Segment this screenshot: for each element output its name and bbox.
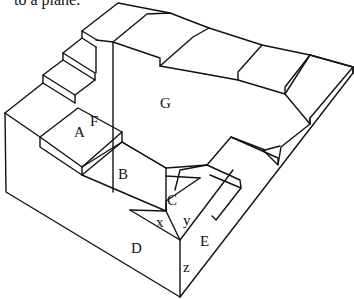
outer-block-edges [5, 67, 353, 297]
middle-steps [40, 108, 233, 240]
right-stairs [175, 67, 353, 220]
label-G: G [160, 95, 171, 111]
label-A: A [74, 124, 85, 140]
staircase-diagram: F G A B C x y E D z [0, 0, 354, 299]
label-D: D [131, 240, 142, 256]
label-E: E [200, 233, 209, 249]
label-C: C [167, 192, 177, 208]
label-B: B [118, 166, 128, 182]
label-x: x [156, 214, 164, 230]
label-y: y [183, 212, 191, 228]
top-stairs [113, 13, 353, 124]
label-F: F [90, 113, 98, 129]
label-z: z [183, 259, 190, 275]
